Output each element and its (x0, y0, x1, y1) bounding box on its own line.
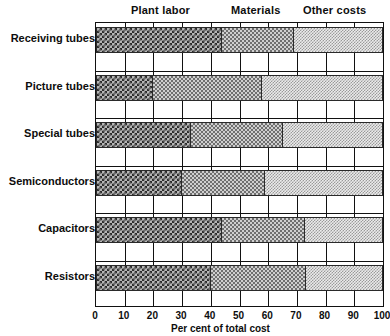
stacked-bar (96, 27, 383, 53)
x-tick-50: 50 (233, 310, 244, 321)
stacked-bar (96, 122, 383, 148)
category-label-picture-tubes: Picture tubes (25, 80, 95, 92)
row-separator (96, 118, 383, 119)
bar-segment-materials (221, 27, 294, 53)
bar-row (96, 23, 383, 71)
x-tick-40: 40 (204, 310, 215, 321)
bar-segment-other-costs (264, 170, 383, 196)
x-tick-0: 0 (92, 310, 98, 321)
bar-segment-materials (190, 122, 283, 148)
stacked-bar (96, 75, 383, 101)
bar-row (96, 166, 383, 214)
bar-segment-materials (152, 75, 262, 101)
category-label-resistors: Resistors (45, 270, 95, 282)
category-label-semiconductors: Semiconductors (9, 175, 95, 187)
bar-segment-materials (181, 170, 265, 196)
bar-segment-other-costs (261, 75, 383, 101)
bar-segment-plant-labor (96, 75, 153, 101)
bar-segment-materials (221, 217, 305, 243)
bar-segment-plant-labor (96, 265, 211, 291)
x-tick-60: 60 (262, 310, 273, 321)
segment-header-plant-labor: Plant labor (131, 4, 190, 16)
bar-segment-plant-labor (96, 27, 222, 53)
plot-area (95, 22, 384, 307)
bar-segment-other-costs (282, 122, 383, 148)
bar-segment-materials (210, 265, 306, 291)
category-label-capacitors: Capacitors (38, 222, 95, 234)
bar-segment-plant-labor (96, 170, 182, 196)
x-axis-title-text: Per cent of total cost (119, 323, 270, 334)
bar-row (96, 261, 383, 309)
row-separator (96, 166, 383, 167)
segment-header-other-costs: Other costs (303, 4, 366, 16)
bar-segment-other-costs (304, 217, 382, 243)
bar-row (96, 213, 383, 261)
x-axis-title: Per cent of total cost (0, 323, 389, 334)
x-tick-70: 70 (290, 310, 301, 321)
segment-header-materials: Materials (231, 4, 281, 16)
bar-segment-other-costs (293, 27, 383, 53)
category-label-receiving-tubes: Receiving tubes (11, 32, 95, 44)
stacked-bar (96, 170, 383, 196)
x-tick-30: 30 (176, 310, 187, 321)
bar-row (96, 71, 383, 119)
x-tick-80: 80 (319, 310, 330, 321)
x-tick-100: 100 (374, 310, 390, 321)
x-tick-10: 10 (118, 310, 129, 321)
bar-segment-other-costs (305, 265, 383, 291)
x-tick-90: 90 (348, 310, 359, 321)
bar-row (96, 118, 383, 166)
row-separator (96, 261, 383, 262)
stacked-bar (96, 217, 383, 243)
stacked-bar (96, 265, 383, 291)
row-separator (96, 213, 383, 214)
row-separator (96, 71, 383, 72)
bar-segment-plant-labor (96, 217, 222, 243)
bar-segment-plant-labor (96, 122, 191, 148)
category-label-special-tubes: Special tubes (24, 127, 95, 139)
x-tick-20: 20 (147, 310, 158, 321)
